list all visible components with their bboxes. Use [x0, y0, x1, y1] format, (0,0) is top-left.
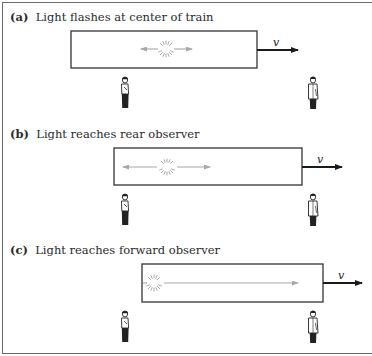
- rear-observer-icon: [122, 77, 129, 108]
- panel-b: v: [114, 148, 342, 226]
- panel-a: v: [71, 31, 318, 109]
- velocity-label: v: [273, 36, 280, 49]
- velocity-label: v: [338, 269, 345, 282]
- rear-observer-icon: [122, 311, 129, 342]
- forward-observer-icon: [309, 311, 319, 343]
- train-car: [71, 31, 257, 68]
- forward-observer-icon: [309, 77, 319, 109]
- rear-observer-icon: [122, 194, 129, 225]
- forward-observer-icon: [309, 194, 319, 226]
- velocity-label: v: [317, 153, 324, 166]
- panel-c: v: [122, 264, 363, 343]
